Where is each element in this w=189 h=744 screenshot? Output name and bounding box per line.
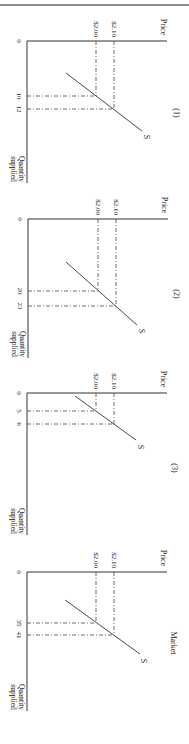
price-tick-label: $2.00 — [92, 552, 100, 568]
origin-label: 0 — [16, 217, 24, 221]
quantity-axis-label-line2: supplied — [9, 156, 18, 182]
price-tick-label: $2.10 — [110, 552, 118, 568]
price-tick-label: $2.00 — [92, 21, 100, 37]
supply-curve — [75, 396, 136, 440]
quantity-tick-label: 35 — [15, 620, 23, 628]
quantity-tick-label: 6 — [15, 422, 23, 426]
supply-curve — [65, 600, 140, 654]
price-axis-label: Price — [159, 19, 168, 36]
quantity-tick-label: 12 — [15, 106, 23, 114]
panel-title: (3) — [170, 463, 179, 473]
chart-panel-3: SPrice$2.00$2.10056Quantitysupplied(3) — [9, 371, 179, 535]
supply-curve-label: S — [136, 445, 145, 449]
supply-charts: SPrice$2.00$2.1001012Quantitysupplied(1)… — [0, 0, 189, 744]
chart-panel-4: SPrice$2.00$2.1003541QuantitysuppliedMar… — [9, 550, 178, 711]
origin-label: 0 — [15, 39, 23, 43]
price-tick-label: $2.10 — [112, 199, 120, 215]
price-tick-label: $2.00 — [92, 373, 100, 389]
quantity-tick-label: 20 — [16, 288, 24, 296]
chart-panel-1: SPrice$2.00$2.1001012Quantitysupplied(1) — [9, 19, 181, 183]
price-axis-label: Price — [160, 197, 169, 214]
price-tick-label: $2.10 — [110, 373, 118, 389]
price-tick-label: $2.00 — [94, 199, 102, 215]
quantity-axis-label-line2: supplied — [9, 684, 18, 710]
chart-panel-2: SPrice$2.00$2.1002023Quantitysupplied(2) — [10, 197, 181, 358]
panel-title: (2) — [172, 289, 181, 299]
quantity-tick-label: 10 — [15, 93, 23, 101]
quantity-tick-label: 23 — [16, 303, 24, 311]
supply-curve-label: S — [139, 659, 148, 663]
quantity-tick-label: 5 — [15, 409, 23, 413]
price-axis-label: Price — [159, 550, 168, 567]
quantity-axis-label-line2: supplied — [10, 331, 19, 357]
supply-curve-label: S — [137, 329, 146, 333]
quantity-axis-label-line2: supplied — [9, 508, 18, 534]
supply-curve-label: S — [142, 135, 151, 139]
panel-title: (1) — [172, 108, 181, 118]
quantity-tick-label: 41 — [15, 632, 23, 640]
supply-curve — [66, 262, 137, 325]
supply-curve — [66, 73, 142, 131]
panel-title: Market — [169, 631, 178, 655]
origin-label: 0 — [15, 570, 23, 574]
price-tick-label: $2.10 — [110, 21, 118, 37]
price-axis-label: Price — [159, 371, 168, 388]
origin-label: 0 — [15, 391, 23, 395]
